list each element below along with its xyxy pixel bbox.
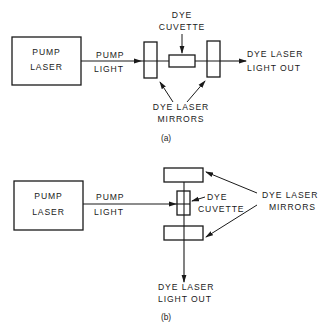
dye-laser-mirror-1 [144, 42, 157, 78]
dye-cuvette [169, 55, 195, 67]
output-label-line1: DYE LASER [247, 49, 303, 59]
dye-cuvette-label-line1: DYE [172, 10, 192, 20]
mirrors-label-line1: DYE LASER [262, 190, 318, 200]
pump-light-label-line1: PUMP [96, 192, 124, 202]
pump-laser-box [14, 181, 83, 230]
dye-laser-diagram: PUMP LASER PUMP LIGHT DYE LASER LIGHT OU… [0, 0, 326, 332]
figure-a-caption: (a) [161, 133, 171, 143]
pump-laser-label-line1: PUMP [32, 47, 60, 57]
pump-light-label-line1: PUMP [96, 50, 124, 60]
mirrors-label-line2: MIRRORS [269, 202, 316, 212]
pump-laser-box [12, 37, 81, 85]
mirror-top-pointer-arrow [206, 172, 257, 193]
output-label-line1: DYE LASER [158, 282, 214, 292]
cuvette-pointer-arrow [192, 197, 205, 201]
figure-b: PUMP LASER PUMP LIGHT DYE CUVETTE DYE LA… [14, 168, 318, 322]
mirrors-label-line2: MIRRORS [158, 114, 205, 124]
dye-laser-mirror-top [164, 168, 203, 182]
mirror-1-pointer-arrow [160, 82, 173, 102]
pump-laser-label-line2: LASER [32, 207, 65, 217]
output-label-line2: LIGHT OUT [247, 63, 301, 73]
output-label-line2: LIGHT OUT [158, 294, 212, 304]
dye-cuvette-label-line2: CUVETTE [159, 22, 205, 32]
dye-laser-mirror-2 [207, 41, 220, 77]
mirrors-label-line1: DYE LASER [153, 102, 209, 112]
dye-cuvette-label-line2: CUVETTE [198, 204, 244, 214]
pump-light-label-line2: LIGHT [94, 207, 124, 217]
pump-laser-label-line1: PUMP [34, 191, 62, 201]
mirror-2-pointer-arrow [187, 81, 205, 102]
dye-cuvette-label-line1: DYE [207, 192, 227, 202]
figure-b-caption: (b) [161, 312, 171, 322]
pump-laser-label-line2: LASER [30, 62, 63, 72]
figure-a: PUMP LASER PUMP LIGHT DYE LASER LIGHT OU… [12, 10, 303, 143]
pump-light-label-line2: LIGHT [94, 64, 124, 74]
